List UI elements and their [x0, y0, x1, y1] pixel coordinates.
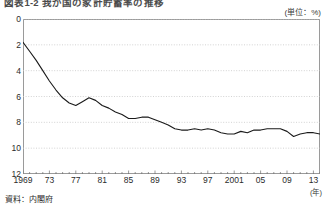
x-axis-unit-label: (年)	[310, 186, 322, 197]
x-axis-tick-label: 81	[97, 176, 106, 185]
source-note: 資料：内閣府	[5, 193, 53, 204]
x-axis: 1969737781858993972001050913	[0, 176, 326, 190]
y-axis-tick-label: 8	[3, 118, 21, 126]
x-axis-tick-label: 97	[203, 176, 212, 185]
y-axis-tick-label: 10	[3, 144, 21, 152]
x-axis-tick-label: 05	[256, 176, 265, 185]
x-axis-tick-label: 85	[124, 176, 133, 185]
x-axis-tick-label: 2001	[225, 176, 244, 185]
y-axis-tick-label: 2	[3, 41, 21, 49]
x-axis-tick-label: 89	[150, 176, 159, 185]
x-axis-tick-marks	[23, 171, 320, 175]
line-chart-plot	[23, 19, 320, 174]
y-axis-tick-label: 0	[3, 15, 21, 23]
page-title: 図表1-2 我が国の家計貯蓄率の推移	[4, 0, 164, 9]
y-axis-tick-label: 6	[3, 93, 21, 101]
x-axis-tick-label: 73	[45, 176, 54, 185]
x-axis-tick-label: 93	[177, 176, 186, 185]
x-axis-tick-label: 77	[71, 176, 80, 185]
y-axis-tick-label: 4	[3, 67, 21, 75]
x-axis-tick-label: 09	[282, 176, 291, 185]
y-axis-unit-label: (単位：%)	[285, 6, 321, 17]
x-axis-tick-label: 13	[309, 176, 318, 185]
x-axis-tick-label: 1969	[14, 176, 33, 185]
